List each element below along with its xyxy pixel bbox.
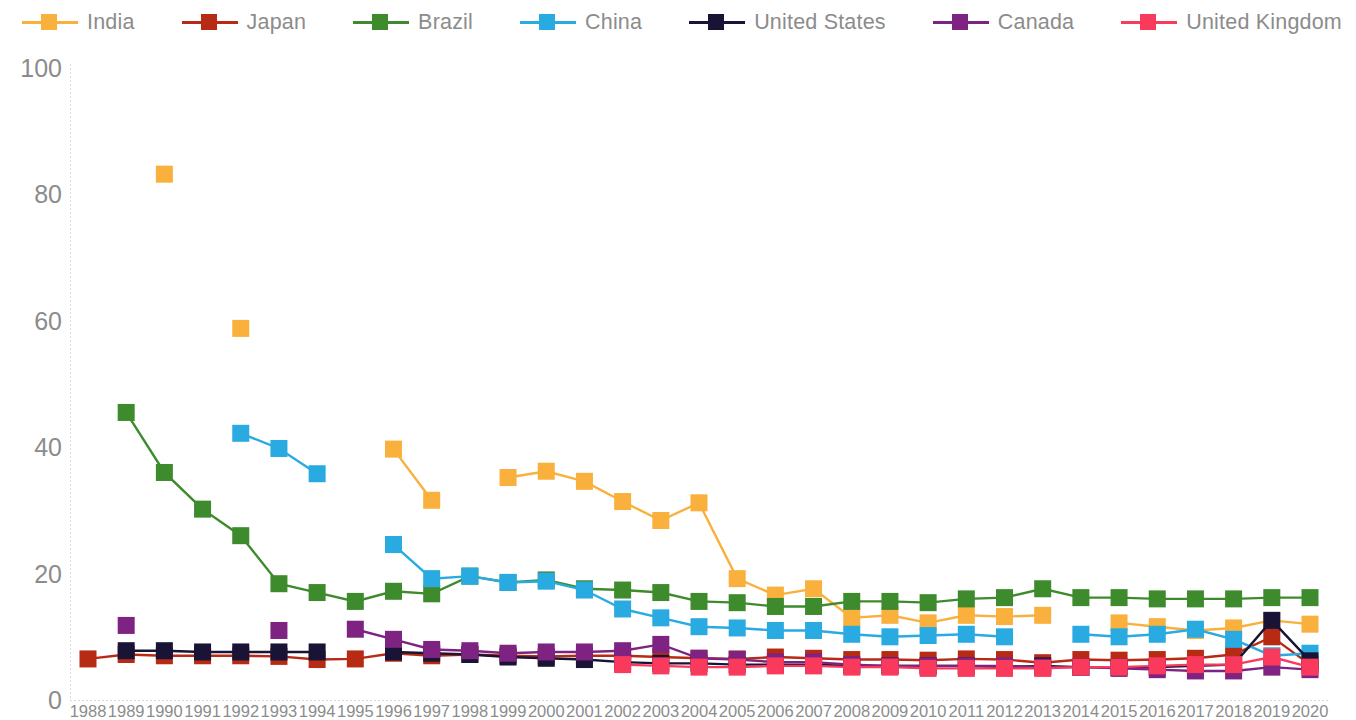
data-point-marker bbox=[652, 584, 669, 601]
x-axis-tick-label: 2008 bbox=[833, 702, 870, 720]
x-axis-tick-label: 2010 bbox=[910, 702, 947, 720]
x-axis-tick-label: 1992 bbox=[222, 702, 259, 720]
data-point-marker bbox=[1187, 656, 1204, 673]
series-line bbox=[126, 651, 317, 652]
legend-swatch-icon bbox=[520, 12, 576, 32]
data-point-marker bbox=[691, 659, 708, 676]
data-point-marker bbox=[1072, 589, 1089, 606]
x-axis-tick-label: 2018 bbox=[1215, 702, 1252, 720]
data-point-marker bbox=[80, 650, 97, 667]
data-point-marker bbox=[270, 575, 287, 592]
x-axis-tick-label: 2003 bbox=[642, 702, 679, 720]
x-axis-tick-label: 1994 bbox=[299, 702, 336, 720]
data-point-marker bbox=[1034, 607, 1051, 624]
data-point-marker bbox=[1225, 590, 1242, 607]
legend-item-brazil[interactable]: Brazil bbox=[353, 10, 473, 35]
data-point-marker bbox=[1149, 590, 1166, 607]
data-point-marker bbox=[118, 617, 135, 634]
data-point-marker bbox=[156, 464, 173, 481]
data-point-marker bbox=[729, 619, 746, 636]
data-point-marker bbox=[270, 440, 287, 457]
data-point-marker bbox=[576, 643, 593, 660]
data-point-marker bbox=[1302, 616, 1319, 633]
data-point-marker bbox=[232, 527, 249, 544]
legend-item-canada[interactable]: Canada bbox=[933, 10, 1075, 35]
data-point-marker bbox=[1187, 621, 1204, 638]
data-point-marker bbox=[461, 642, 478, 659]
data-point-marker bbox=[232, 425, 249, 442]
series-line bbox=[126, 412, 1310, 606]
x-axis-tick-label: 2004 bbox=[681, 702, 718, 720]
x-axis-tick-label: 2015 bbox=[1101, 702, 1138, 720]
data-point-marker bbox=[843, 626, 860, 643]
data-point-marker bbox=[843, 609, 860, 626]
legend-item-china[interactable]: China bbox=[520, 10, 642, 35]
series-brazil bbox=[118, 404, 1319, 615]
data-point-marker bbox=[576, 473, 593, 490]
legend-item-united-kingdom[interactable]: United Kingdom bbox=[1121, 10, 1342, 35]
data-point-marker bbox=[500, 645, 517, 662]
data-point-marker bbox=[385, 441, 402, 458]
legend-item-india[interactable]: India bbox=[22, 10, 135, 35]
x-axis-tick-label: 1998 bbox=[452, 702, 489, 720]
x-axis-tick-label: 2017 bbox=[1177, 702, 1214, 720]
x-axis-tick-label: 1991 bbox=[184, 702, 221, 720]
x-axis-tick-label: 1995 bbox=[337, 702, 374, 720]
data-point-marker bbox=[1072, 626, 1089, 643]
legend-label: China bbox=[585, 10, 642, 35]
data-point-marker bbox=[881, 593, 898, 610]
data-point-marker bbox=[996, 589, 1013, 606]
legend-label: United States bbox=[754, 10, 886, 35]
data-point-marker bbox=[461, 568, 478, 585]
x-axis-tick-label: 2020 bbox=[1292, 702, 1329, 720]
data-point-marker bbox=[1111, 628, 1128, 645]
data-point-marker bbox=[614, 582, 631, 599]
data-point-marker bbox=[805, 657, 822, 674]
data-point-marker bbox=[843, 593, 860, 610]
data-point-marker bbox=[691, 618, 708, 635]
data-point-marker bbox=[767, 598, 784, 615]
data-point-marker bbox=[1034, 660, 1051, 677]
data-point-marker bbox=[996, 660, 1013, 677]
x-axis-tick-label: 2016 bbox=[1139, 702, 1176, 720]
data-point-marker bbox=[958, 626, 975, 643]
chart-series-canvas bbox=[0, 44, 1356, 720]
data-point-marker bbox=[1187, 590, 1204, 607]
data-point-marker bbox=[614, 600, 631, 617]
data-point-marker bbox=[1263, 649, 1280, 666]
data-point-marker bbox=[691, 494, 708, 511]
legend-label: Brazil bbox=[418, 10, 473, 35]
legend-swatch-icon bbox=[689, 12, 745, 32]
x-axis-tick-label: 2007 bbox=[795, 702, 832, 720]
chart-legend: IndiaJapanBrazilChinaUnited StatesCanada… bbox=[0, 0, 1356, 44]
data-point-marker bbox=[805, 580, 822, 597]
x-axis-tick-label: 1997 bbox=[413, 702, 450, 720]
data-point-marker bbox=[805, 598, 822, 615]
data-point-marker bbox=[423, 641, 440, 658]
data-point-marker bbox=[156, 642, 173, 659]
legend-item-united-states[interactable]: United States bbox=[689, 10, 886, 35]
x-axis-tick-label: 2012 bbox=[986, 702, 1023, 720]
data-point-marker bbox=[1263, 612, 1280, 629]
data-point-marker bbox=[652, 609, 669, 626]
legend-item-japan[interactable]: Japan bbox=[182, 10, 307, 35]
data-point-marker bbox=[1072, 659, 1089, 676]
data-point-marker bbox=[385, 631, 402, 648]
x-axis-tick-label: 2000 bbox=[528, 702, 565, 720]
data-point-marker bbox=[881, 659, 898, 676]
data-point-marker bbox=[194, 501, 211, 518]
data-point-marker bbox=[881, 628, 898, 645]
data-point-marker bbox=[1302, 589, 1319, 606]
data-point-marker bbox=[920, 627, 937, 644]
legend-swatch-icon bbox=[353, 12, 409, 32]
data-point-marker bbox=[652, 657, 669, 674]
data-point-marker bbox=[309, 465, 326, 482]
x-axis: 1988198919901991199219931994199519961997… bbox=[0, 702, 1356, 720]
x-axis-tick-label: 1993 bbox=[261, 702, 298, 720]
legend-label: Canada bbox=[998, 10, 1075, 35]
series-china bbox=[232, 425, 1318, 664]
x-axis-tick-label: 2001 bbox=[566, 702, 603, 720]
data-point-marker bbox=[423, 585, 440, 602]
legend-label: Japan bbox=[247, 10, 307, 35]
data-point-marker bbox=[270, 622, 287, 639]
